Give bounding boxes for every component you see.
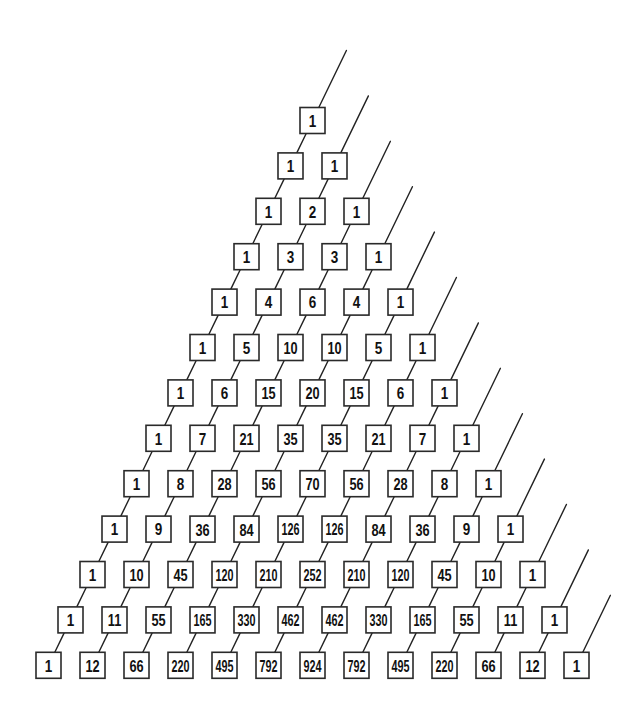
diagonal-connector [429, 406, 438, 425]
cell-value: 45 [173, 567, 187, 585]
diagonal-connector [385, 406, 394, 425]
diagonal-connector [539, 633, 548, 652]
cell-box: 84 [366, 516, 391, 542]
cell-value: 10 [283, 340, 297, 358]
cell-value: 1 [485, 476, 493, 493]
cell-value: 1 [309, 113, 317, 130]
diagonal-connector [495, 542, 504, 561]
cell-box: 1 [124, 471, 149, 497]
cell-value: 792 [259, 658, 277, 675]
cell-value: 10 [129, 567, 143, 585]
cell-box: 55 [454, 607, 479, 633]
cell-value: 10 [481, 567, 495, 585]
cell-box: 28 [388, 471, 413, 497]
cell-value: 330 [369, 612, 387, 629]
diagonal-connector [407, 633, 416, 652]
cell-box: 15 [344, 380, 369, 406]
triangle-row-7: 172135352171 [146, 425, 479, 451]
cell-box: 1 [146, 425, 171, 451]
cell-value: 1 [243, 249, 251, 266]
diagonal-extension [495, 414, 523, 471]
diagonal-connector [187, 451, 196, 470]
diagonal-extension [407, 232, 435, 289]
cell-value: 1 [331, 158, 339, 175]
diagonal-connector [341, 406, 350, 425]
diagonal-connector [363, 633, 372, 652]
diagonal-connector [429, 588, 438, 607]
triangle-row-10: 1104512021025221012045101 [80, 562, 545, 588]
diagonal-connector [275, 270, 284, 289]
diagonal-connector [297, 315, 306, 334]
cell-box: 792 [256, 652, 281, 678]
cell-box: 56 [344, 471, 369, 497]
cell-box: 252 [300, 562, 325, 588]
cell-value: 495 [391, 658, 409, 675]
cell-box: 165 [410, 607, 435, 633]
cell-box: 5 [234, 335, 259, 361]
cell-box: 495 [388, 652, 413, 678]
cell-value: 6 [221, 385, 229, 402]
cell-value: 21 [239, 431, 253, 449]
diagonal-connector [319, 270, 328, 289]
cell-box: 210 [256, 562, 281, 588]
cell-box: 126 [322, 516, 347, 542]
pascal-triangle-diagram: 1111211331146411510105116152015611721353… [0, 0, 640, 725]
diagonal-connector [385, 315, 394, 334]
triangle-row-2: 121 [256, 198, 369, 224]
cell-value: 36 [415, 521, 429, 539]
diagonal-connector [209, 588, 218, 607]
diagonal-extension [583, 595, 611, 652]
cell-value: 20 [305, 385, 319, 403]
cell-box: 6 [212, 380, 237, 406]
cell-value: 3 [287, 249, 295, 266]
cell-value: 45 [437, 567, 451, 585]
cell-value: 126 [325, 521, 343, 538]
diagonal-connector [363, 361, 372, 380]
diagonal-connector [319, 451, 328, 470]
cell-box: 36 [190, 516, 215, 542]
cell-box: 21 [366, 425, 391, 451]
cell-box: 11 [498, 607, 523, 633]
diagonal-extension [429, 278, 457, 335]
diagonal-connector [451, 542, 460, 561]
diagonal-connector [275, 179, 284, 198]
diagonal-connector [121, 588, 130, 607]
cell-box: 1 [454, 425, 479, 451]
cell-value: 6 [309, 295, 317, 312]
cell-box: 1 [432, 380, 457, 406]
cell-value: 11 [504, 612, 517, 630]
cell-box: 1 [542, 607, 567, 633]
diagonal-extension [473, 368, 501, 425]
diagonal-connector [209, 315, 218, 334]
diagonal-connector [143, 451, 152, 470]
cell-box: 10 [476, 562, 501, 588]
cell-box: 330 [366, 607, 391, 633]
diagonal-connector [165, 588, 174, 607]
cell-box: 792 [344, 652, 369, 678]
cell-box: 220 [168, 652, 193, 678]
diagonal-connector [275, 633, 284, 652]
cell-value: 56 [261, 476, 275, 494]
diagonal-connector [297, 134, 306, 153]
diagonal-connector [187, 361, 196, 380]
cell-value: 8 [441, 476, 449, 493]
cell-box: 7 [190, 425, 215, 451]
diagonal-connector [297, 588, 306, 607]
triangle-row-9: 193684126126843691 [102, 516, 523, 542]
cell-value: 1 [199, 340, 207, 357]
diagonal-connector [99, 542, 108, 561]
cell-box: 1 [476, 471, 501, 497]
diagonal-connector [407, 451, 416, 470]
cell-value: 2 [309, 204, 317, 221]
cell-box: 9 [454, 516, 479, 542]
cell-value: 66 [481, 658, 495, 676]
cell-box: 462 [322, 607, 347, 633]
cell-value: 210 [347, 567, 365, 584]
diagonal-connector [341, 315, 350, 334]
diagonal-extension [561, 550, 589, 607]
cell-value: 8 [177, 476, 185, 493]
diagonal-connector [231, 270, 240, 289]
cell-value: 3 [331, 249, 339, 266]
cell-value: 55 [459, 612, 473, 630]
cell-box: 12 [80, 652, 105, 678]
